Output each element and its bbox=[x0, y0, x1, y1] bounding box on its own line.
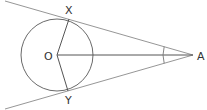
label-x: X bbox=[65, 4, 73, 17]
label-o: O bbox=[44, 50, 53, 63]
diagram-svg: X O Y A bbox=[0, 0, 207, 110]
label-y: Y bbox=[64, 94, 72, 107]
label-a: A bbox=[197, 50, 205, 63]
radius-ox bbox=[57, 19, 69, 55]
geometry-diagram: X O Y A bbox=[0, 0, 207, 110]
radius-oy bbox=[57, 55, 68, 91]
